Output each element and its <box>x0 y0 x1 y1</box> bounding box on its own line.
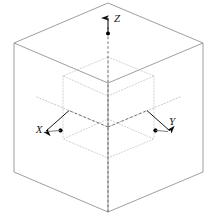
z-axis-marker-dot <box>106 32 110 36</box>
inner-cube-bottom-face <box>63 119 154 158</box>
figure-root: Z X Y <box>0 0 217 222</box>
y-axis-arrow-shaft <box>147 111 170 131</box>
coordinate-axes <box>46 18 170 212</box>
isometric-cube-diagram: Z X Y <box>0 0 217 222</box>
x-axis-arrow-shaft <box>46 111 69 131</box>
z-axis-label: Z <box>114 12 121 24</box>
x-marker-connector <box>48 130 61 131</box>
y-axis-line <box>108 111 146 127</box>
inner-cube-top-face <box>63 57 154 96</box>
inner-cube <box>63 57 154 158</box>
y-marker-connector <box>156 130 169 131</box>
outer-cube-top-face <box>14 3 203 83</box>
x-axis-line <box>70 111 108 127</box>
y-axis-label: Y <box>169 115 177 127</box>
outer-cube-edge-bottom-left <box>14 172 108 212</box>
x-axis-label: X <box>35 123 44 135</box>
outer-cube-edge-bottom-right <box>108 172 203 212</box>
axis-guide-lines <box>37 97 180 127</box>
